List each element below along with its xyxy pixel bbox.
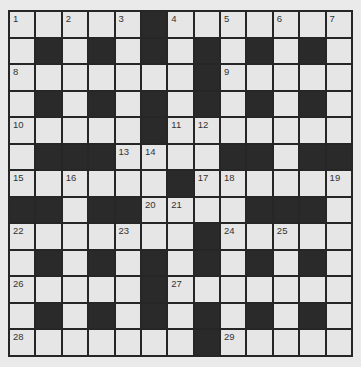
answer-cell[interactable] <box>274 92 298 117</box>
answer-cell[interactable]: 6 <box>274 12 298 37</box>
answer-cell[interactable] <box>195 145 219 170</box>
answer-cell[interactable] <box>36 65 60 90</box>
answer-cell[interactable] <box>116 251 140 276</box>
answer-cell[interactable] <box>63 304 87 329</box>
answer-cell[interactable] <box>63 251 87 276</box>
answer-cell[interactable] <box>36 171 60 196</box>
answer-cell[interactable] <box>142 171 166 196</box>
answer-cell[interactable] <box>36 12 60 37</box>
answer-cell[interactable]: 13 <box>116 145 140 170</box>
answer-cell[interactable] <box>327 198 351 223</box>
answer-cell[interactable] <box>247 65 271 90</box>
answer-cell[interactable]: 12 <box>195 118 219 143</box>
answer-cell[interactable] <box>247 330 271 355</box>
answer-cell[interactable] <box>142 65 166 90</box>
answer-cell[interactable] <box>10 251 34 276</box>
answer-cell[interactable] <box>116 39 140 64</box>
answer-cell[interactable] <box>274 277 298 302</box>
answer-cell[interactable] <box>168 251 192 276</box>
answer-cell[interactable] <box>274 145 298 170</box>
answer-cell[interactable]: 18 <box>221 171 245 196</box>
answer-cell[interactable]: 23 <box>116 224 140 249</box>
answer-cell[interactable] <box>274 304 298 329</box>
answer-cell[interactable] <box>247 224 271 249</box>
answer-cell[interactable] <box>142 224 166 249</box>
answer-cell[interactable] <box>274 65 298 90</box>
answer-cell[interactable] <box>221 198 245 223</box>
answer-cell[interactable]: 25 <box>274 224 298 249</box>
answer-cell[interactable] <box>10 92 34 117</box>
answer-cell[interactable] <box>116 65 140 90</box>
answer-cell[interactable]: 28 <box>10 330 34 355</box>
answer-cell[interactable]: 7 <box>327 12 351 37</box>
answer-cell[interactable] <box>247 12 271 37</box>
answer-cell[interactable] <box>89 277 113 302</box>
answer-cell[interactable] <box>274 171 298 196</box>
answer-cell[interactable]: 27 <box>168 277 192 302</box>
answer-cell[interactable] <box>300 118 324 143</box>
answer-cell[interactable] <box>327 251 351 276</box>
answer-cell[interactable] <box>221 277 245 302</box>
answer-cell[interactable] <box>63 65 87 90</box>
answer-cell[interactable]: 21 <box>168 198 192 223</box>
answer-cell[interactable] <box>63 92 87 117</box>
answer-cell[interactable] <box>63 277 87 302</box>
answer-cell[interactable]: 8 <box>10 65 34 90</box>
answer-cell[interactable] <box>274 330 298 355</box>
answer-cell[interactable] <box>63 198 87 223</box>
answer-cell[interactable] <box>300 65 324 90</box>
answer-cell[interactable] <box>327 277 351 302</box>
answer-cell[interactable] <box>300 171 324 196</box>
answer-cell[interactable] <box>247 171 271 196</box>
answer-cell[interactable] <box>168 145 192 170</box>
answer-cell[interactable] <box>89 12 113 37</box>
answer-cell[interactable] <box>89 330 113 355</box>
answer-cell[interactable] <box>36 118 60 143</box>
answer-cell[interactable] <box>10 39 34 64</box>
answer-cell[interactable] <box>116 304 140 329</box>
answer-cell[interactable] <box>221 118 245 143</box>
answer-cell[interactable]: 10 <box>10 118 34 143</box>
answer-cell[interactable] <box>300 330 324 355</box>
answer-cell[interactable] <box>327 304 351 329</box>
answer-cell[interactable] <box>195 277 219 302</box>
answer-cell[interactable]: 16 <box>63 171 87 196</box>
answer-cell[interactable] <box>221 251 245 276</box>
answer-cell[interactable] <box>195 198 219 223</box>
answer-cell[interactable] <box>116 118 140 143</box>
answer-cell[interactable] <box>327 118 351 143</box>
answer-cell[interactable] <box>89 224 113 249</box>
answer-cell[interactable] <box>221 92 245 117</box>
answer-cell[interactable] <box>116 277 140 302</box>
answer-cell[interactable]: 15 <box>10 171 34 196</box>
answer-cell[interactable] <box>89 118 113 143</box>
answer-cell[interactable] <box>10 304 34 329</box>
answer-cell[interactable]: 26 <box>10 277 34 302</box>
answer-cell[interactable] <box>300 277 324 302</box>
answer-cell[interactable]: 9 <box>221 65 245 90</box>
answer-cell[interactable]: 22 <box>10 224 34 249</box>
answer-cell[interactable] <box>247 118 271 143</box>
answer-cell[interactable] <box>63 118 87 143</box>
answer-cell[interactable]: 5 <box>221 12 245 37</box>
answer-cell[interactable] <box>168 304 192 329</box>
answer-cell[interactable]: 1 <box>10 12 34 37</box>
answer-cell[interactable] <box>247 277 271 302</box>
answer-cell[interactable]: 20 <box>142 198 166 223</box>
answer-cell[interactable] <box>168 330 192 355</box>
answer-cell[interactable] <box>327 65 351 90</box>
answer-cell[interactable] <box>327 92 351 117</box>
answer-cell[interactable] <box>274 118 298 143</box>
answer-cell[interactable] <box>221 304 245 329</box>
answer-cell[interactable] <box>89 65 113 90</box>
answer-cell[interactable] <box>327 39 351 64</box>
answer-cell[interactable] <box>300 12 324 37</box>
answer-cell[interactable] <box>63 330 87 355</box>
answer-cell[interactable] <box>327 224 351 249</box>
answer-cell[interactable] <box>36 277 60 302</box>
answer-cell[interactable] <box>36 330 60 355</box>
answer-cell[interactable] <box>168 65 192 90</box>
answer-cell[interactable]: 14 <box>142 145 166 170</box>
answer-cell[interactable] <box>63 39 87 64</box>
answer-cell[interactable] <box>116 330 140 355</box>
